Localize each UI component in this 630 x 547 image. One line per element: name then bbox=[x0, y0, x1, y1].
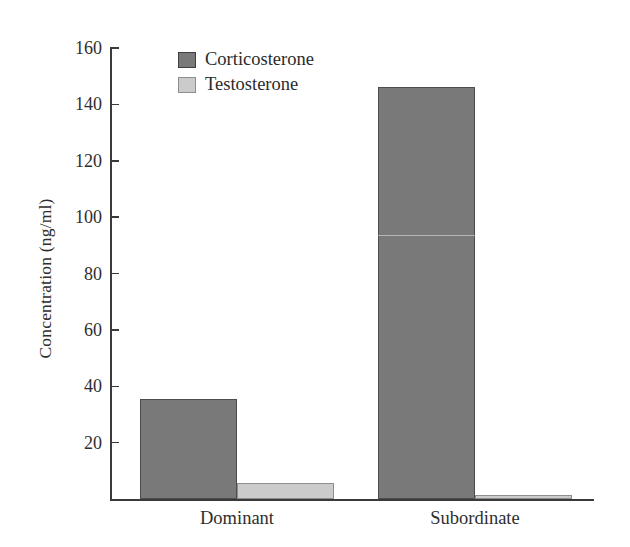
bar-subordinate-testosterone bbox=[475, 495, 572, 499]
y-tick-label-100: 100 bbox=[42, 208, 102, 226]
legend-label-testosterone: Testosterone bbox=[205, 74, 298, 95]
legend-item-testosterone: Testosterone bbox=[178, 72, 314, 97]
bar-subordinate-corticosterone bbox=[378, 87, 475, 499]
legend-swatch-icon-corticosterone bbox=[178, 52, 196, 68]
x-axis-label-dominant: Dominant bbox=[127, 508, 347, 529]
legend-label-corticosterone: Corticosterone bbox=[205, 49, 314, 70]
legend: Corticosterone Testosterone bbox=[178, 47, 314, 97]
y-tick-label-40: 40 bbox=[42, 377, 102, 395]
x-axis-line bbox=[110, 499, 594, 501]
y-tick-label-80: 80 bbox=[42, 265, 102, 283]
y-tick-label-60: 60 bbox=[42, 321, 102, 339]
y-tick-label-20: 20 bbox=[42, 434, 102, 452]
bar-dominant-testosterone bbox=[237, 483, 334, 499]
y-tick-label-140: 140 bbox=[42, 95, 102, 113]
bar-chart: Concentration (ng/ml) 160140120100806040… bbox=[0, 0, 630, 547]
y-tick-label-120: 120 bbox=[42, 152, 102, 170]
legend-swatch-icon-testosterone bbox=[178, 77, 196, 93]
y-tick-label-160: 160 bbox=[42, 39, 102, 57]
legend-item-corticosterone: Corticosterone bbox=[178, 47, 314, 72]
plot-bars bbox=[110, 48, 594, 499]
bar-dominant-corticosterone bbox=[140, 399, 237, 499]
x-axis-label-subordinate: Subordinate bbox=[365, 508, 585, 529]
